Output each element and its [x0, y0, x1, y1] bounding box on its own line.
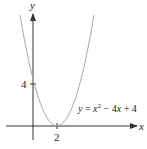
y-axis-label: y [29, 0, 35, 11]
x-axis-label: x [138, 120, 144, 132]
x-tick-label-2: 2 [54, 131, 60, 143]
eq-equals: = [82, 103, 93, 114]
parabola-chart: y x 4 2 y = x2 − 4x + 4 [0, 0, 147, 149]
eq-plus-4: + 4 [121, 103, 137, 114]
equation-label: y = x2 − 4x + 4 [77, 102, 137, 114]
eq-minus-4: − 4 [101, 103, 117, 114]
y-tick-label-4: 4 [21, 78, 27, 90]
